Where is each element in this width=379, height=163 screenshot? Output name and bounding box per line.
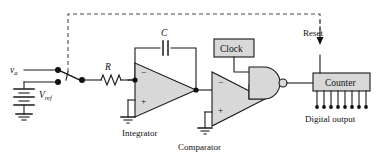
integrator-label: Integrator — [122, 128, 157, 138]
switch-terminal-bottom-dot — [55, 79, 61, 85]
comparator-plus-sign: + — [218, 105, 223, 115]
integrator-plus-sign: + — [141, 96, 146, 106]
integrator-opamp — [121, 63, 196, 123]
input-resistor — [82, 75, 135, 85]
nand-gate — [249, 67, 313, 99]
input-signal-wire — [24, 67, 61, 73]
counter-label: Counter — [325, 78, 356, 88]
digital-output-pins — [315, 91, 368, 109]
integrator-minus-sign: − — [141, 67, 146, 77]
input-selector-switch[interactable] — [58, 70, 85, 83]
capacitor-label: C — [161, 28, 168, 38]
integrator-output-node-dot — [193, 87, 198, 92]
integrator-to-comparator-wire — [193, 87, 212, 92]
input-signal-label: va — [10, 65, 17, 76]
comparator-minus-sign: − — [218, 77, 223, 87]
reset-arrowhead — [317, 37, 324, 45]
reference-voltage-source — [14, 79, 61, 120]
reference-voltage-label: Vref — [39, 90, 53, 101]
integrator-inverting-node-dot — [132, 77, 137, 82]
circuit-diagram-figure: va Vref — [0, 0, 379, 163]
nand-inversion-bubble — [279, 79, 287, 87]
digital-output-label: Digital output — [305, 114, 356, 124]
circuit-schematic-canvas: va Vref — [0, 0, 379, 163]
reset-label: Reset — [303, 28, 323, 38]
resistor-label: R — [104, 62, 111, 72]
comparator-label: Comparator — [178, 142, 221, 152]
clock-label: Clock — [220, 44, 243, 54]
